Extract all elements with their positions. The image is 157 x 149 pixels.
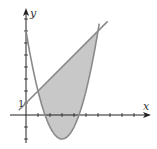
y-axis-label: y — [29, 7, 37, 20]
shaded-region — [38, 31, 98, 139]
y-tick-label-1: 1 — [18, 98, 24, 109]
shaded-area — [38, 31, 98, 139]
chart-figure: y x 1 — [0, 0, 157, 149]
x-axis-label: x — [143, 100, 150, 113]
